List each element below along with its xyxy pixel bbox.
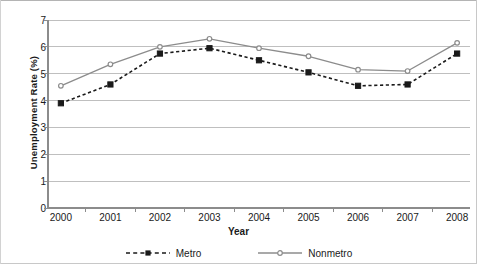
x-tick-label: 2006 [338,212,378,223]
data-point-marker-metro [306,70,311,75]
data-point-marker-metro [157,51,162,56]
data-point-marker-nonmetro [158,45,163,50]
x-tick-label: 2008 [437,212,477,223]
data-point-marker-metro [355,83,360,88]
data-point-marker-nonmetro [207,37,212,42]
data-point-marker-metro [455,51,460,56]
chart-legend: MetroNonmetro [0,243,477,263]
x-tick-label: 2003 [189,212,229,223]
legend-swatch-nonmetro [257,247,303,259]
legend-item-metro[interactable]: Metro [125,247,202,259]
legend-label: Metro [176,248,202,259]
plot-area [0,0,477,264]
x-tick-label: 2002 [140,212,180,223]
x-tick-label: 2005 [289,212,329,223]
x-tick-label: 2001 [90,212,130,223]
legend-item-nonmetro[interactable]: Nonmetro [257,247,352,259]
x-tick-label: 2000 [41,212,81,223]
data-point-marker-metro [58,101,63,106]
x-tick-label: 2007 [388,212,428,223]
data-point-marker-metro [405,82,410,87]
data-point-marker-nonmetro [59,84,64,89]
legend-swatch-metro [125,247,171,259]
x-axis-title: Year [0,226,477,237]
series-line-metro [61,48,457,103]
legend-label: Nonmetro [308,248,352,259]
data-point-marker-nonmetro [405,69,410,74]
data-point-marker-metro [108,82,113,87]
data-point-marker-nonmetro [108,62,113,67]
data-point-marker-nonmetro [455,41,460,46]
data-point-marker-nonmetro [306,54,311,59]
data-point-marker-metro [256,58,261,63]
data-point-marker-nonmetro [257,46,262,51]
data-point-marker-metro [207,46,212,51]
unemployment-rate-line-chart: Unemployment Rate (%) 01234567 200020012… [0,0,477,264]
x-tick-label: 2004 [239,212,279,223]
data-point-marker-nonmetro [356,67,361,72]
